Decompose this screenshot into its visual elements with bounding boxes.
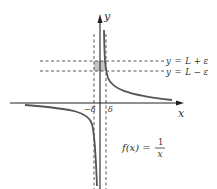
curve-right-branch bbox=[104, 30, 172, 100]
y-axis-arrow-icon bbox=[98, 14, 103, 23]
function-denominator: x bbox=[158, 149, 163, 159]
y-axis-label: y bbox=[103, 10, 111, 23]
x-axis-arrow-icon bbox=[176, 101, 184, 106]
x-axis-label: x bbox=[178, 107, 185, 120]
delta-label: δ bbox=[108, 105, 113, 114]
minus-delta-label: −δ bbox=[84, 105, 96, 114]
curve-left-branch bbox=[25, 105, 97, 186]
function-label: f(x) = 1 x bbox=[121, 137, 165, 159]
limit-diagram: y x −δ δ y = L + ε y = L − ε f(x) = 1 x bbox=[0, 0, 217, 189]
upper-line-label: y = L + ε bbox=[165, 56, 209, 66]
function-numerator: 1 bbox=[158, 137, 163, 147]
lower-line-label: y = L − ε bbox=[165, 67, 209, 77]
function-lhs: f(x) = bbox=[121, 142, 151, 153]
